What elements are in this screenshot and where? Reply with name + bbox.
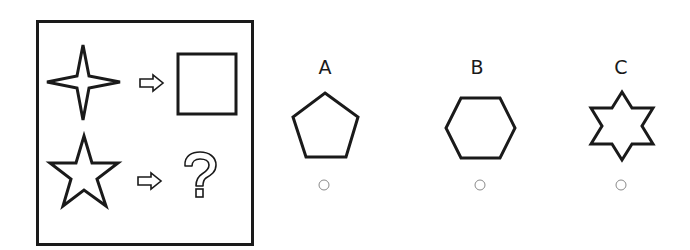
hexagon-icon [446,98,515,158]
option-a[interactable]: A [293,56,358,190]
five-point-star-icon [50,136,118,206]
six-point-star-icon [591,92,653,160]
four-point-star-icon [47,45,120,120]
option-b[interactable]: B [446,56,515,190]
option-a-label: A [319,56,332,78]
option-c-label: C [614,56,627,78]
option-c[interactable]: C [591,56,653,190]
option-b-label: B [470,56,483,78]
question-mark-icon [185,152,216,197]
square-icon [178,54,236,114]
option-c-radio[interactable] [616,180,626,190]
option-b-radio[interactable] [475,180,485,190]
pentagon-icon [293,93,358,157]
option-a-radio[interactable] [319,180,329,190]
puzzle-canvas: A B C [0,0,690,250]
right-arrow-icon [138,173,161,189]
right-arrow-icon [140,75,163,91]
